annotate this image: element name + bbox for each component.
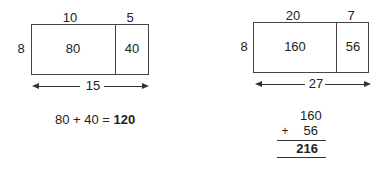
arrow-left-icon: [32, 83, 39, 89]
right-cell-ones: 56: [339, 40, 367, 54]
left-top-label-tens: 10: [55, 11, 85, 25]
addend-2: 56: [300, 124, 318, 138]
arrow-left-icon: [255, 81, 262, 87]
arrow-right-icon: [364, 81, 371, 87]
plus-sign: +: [280, 124, 290, 138]
left-cell-ones: 40: [118, 42, 146, 56]
left-total-width-label: 15: [82, 79, 104, 93]
right-divider: [336, 22, 337, 73]
left-cell-tens: 80: [58, 42, 88, 56]
sum-line-bottom: [277, 157, 326, 158]
left-arrow-line-right: [104, 86, 144, 87]
addend-1: 160: [300, 109, 318, 123]
right-arrow-line-left: [257, 84, 305, 85]
right-top-label-tens: 20: [278, 9, 308, 23]
left-divider: [115, 24, 116, 75]
left-side-label: 8: [14, 42, 28, 56]
right-cell-tens: 160: [280, 40, 310, 54]
sum: 216: [294, 142, 318, 156]
left-arrow-line-left: [34, 86, 80, 87]
left-equation-expression: 80 + 40 =: [55, 112, 114, 127]
right-total-width-label: 27: [305, 77, 327, 91]
right-side-label: 8: [237, 40, 251, 54]
right-arrow-line-right: [325, 84, 365, 85]
left-equation-result: 120: [114, 112, 136, 127]
left-equation: 80 + 40 = 120: [55, 113, 135, 127]
arrow-right-icon: [142, 83, 149, 89]
right-top-label-ones: 7: [341, 9, 361, 23]
left-top-label-ones: 5: [120, 11, 140, 25]
